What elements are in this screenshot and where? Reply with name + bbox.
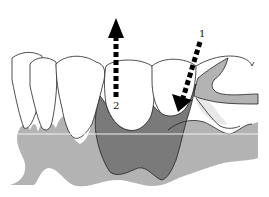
diagram-canvas [0, 0, 269, 197]
label-arrow-1: 1 [199, 29, 205, 39]
soft-tissue-right [194, 58, 258, 104]
tooth-second-left [30, 58, 57, 130]
dental-diagram: 1 2 [0, 0, 269, 197]
label-arrow-2: 2 [113, 101, 119, 111]
